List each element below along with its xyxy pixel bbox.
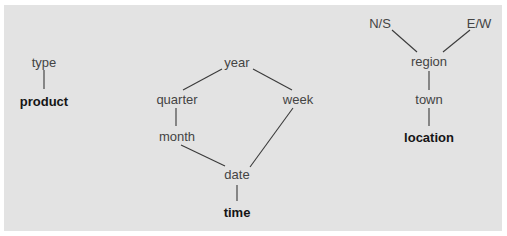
node-product: product <box>20 94 69 109</box>
node-quarter: quarter <box>156 92 198 107</box>
concept-hierarchy-diagram: type product year quarter week month dat… <box>0 0 507 236</box>
node-town: town <box>415 92 442 107</box>
edge-week-date <box>250 108 293 167</box>
edge-year-quarter <box>183 69 222 90</box>
node-region: region <box>411 54 447 69</box>
node-ns: N/S <box>369 16 391 31</box>
edge-month-date <box>181 145 225 166</box>
node-week: week <box>282 92 314 107</box>
edge-year-week <box>253 69 292 90</box>
node-type: type <box>32 55 57 70</box>
location-hierarchy: N/S E/W region town location <box>369 16 492 145</box>
node-time: time <box>224 205 251 220</box>
edge-ns-region <box>392 30 417 52</box>
product-hierarchy: type product <box>20 55 69 109</box>
node-year: year <box>224 55 250 70</box>
node-ew: E/W <box>467 16 492 31</box>
node-date: date <box>224 167 249 182</box>
node-month: month <box>159 129 195 144</box>
edge-ew-region <box>443 30 470 52</box>
node-location: location <box>404 130 454 145</box>
time-hierarchy: year quarter week month date time <box>156 55 313 220</box>
